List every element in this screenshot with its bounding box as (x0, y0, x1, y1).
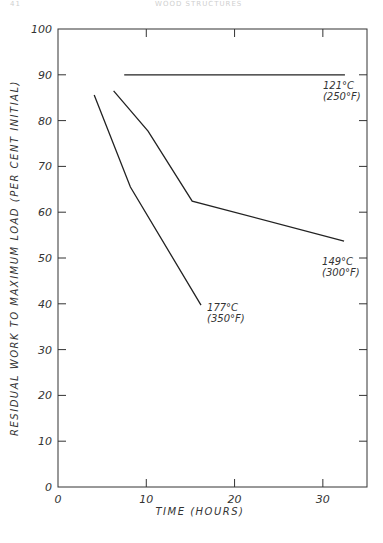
y-tick-label: 80 (38, 115, 52, 128)
x-tick-labels: 0102030 (55, 493, 330, 506)
series-label: 149°C (322, 256, 353, 267)
series-label-f: (350°F) (207, 313, 245, 324)
series-line (94, 95, 201, 305)
series-labels: 121°C(250°F)149°C(300°F)177°C(350°F) (207, 80, 361, 324)
y-tick-label: 50 (38, 252, 52, 265)
y-tick-label: 90 (38, 69, 52, 82)
y-tick-label: 70 (38, 160, 52, 173)
series-label-f: (250°F) (323, 91, 361, 102)
plot-frame (58, 29, 367, 487)
y-axis-title: RESIDUAL WORK TO MAXIMUM LOAD (PER CENT … (9, 80, 20, 436)
x-tick-label: 30 (316, 493, 330, 506)
series-label: 177°C (207, 302, 238, 313)
x-tick-label: 20 (228, 493, 242, 506)
y-tick-label: 40 (38, 298, 52, 311)
x-tick-label: 0 (55, 493, 62, 506)
y-tick-label: 60 (38, 206, 52, 219)
y-tick-label: 30 (38, 344, 52, 357)
y-tick-label: 10 (38, 435, 52, 448)
y-tick-labels: 0102030405060708090100 (31, 23, 52, 494)
x-tick-label: 10 (139, 493, 153, 506)
series-label: 121°C (323, 80, 354, 91)
y-tick-label: 100 (31, 23, 52, 36)
series-lines (94, 75, 345, 305)
axis-ticks (58, 29, 367, 487)
y-tick-label: 20 (38, 389, 52, 402)
line-chart: 0102030405060708090100 0102030 121°C(250… (0, 0, 383, 543)
series-label-f: (300°F) (322, 267, 360, 278)
x-axis-title: TIME (HOURS) (156, 506, 245, 517)
series-line (114, 91, 344, 241)
y-tick-label: 0 (45, 481, 52, 494)
